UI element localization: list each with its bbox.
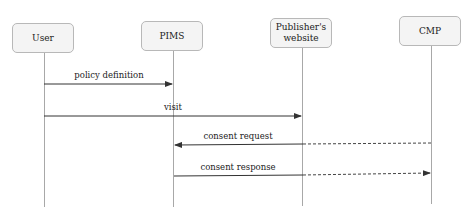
sequence-diagram: User PIMS Publisher's website CMP	[0, 0, 474, 220]
message-arrows	[0, 0, 474, 220]
message-label-visit: visit	[164, 102, 182, 112]
arrow-consent-request	[175, 143, 431, 145]
message-label-consent-response: consent response	[200, 162, 275, 172]
arrow-consent-response	[174, 173, 430, 176]
message-label-policy-definition: policy definition	[74, 70, 143, 80]
message-label-consent-request: consent request	[203, 131, 272, 141]
